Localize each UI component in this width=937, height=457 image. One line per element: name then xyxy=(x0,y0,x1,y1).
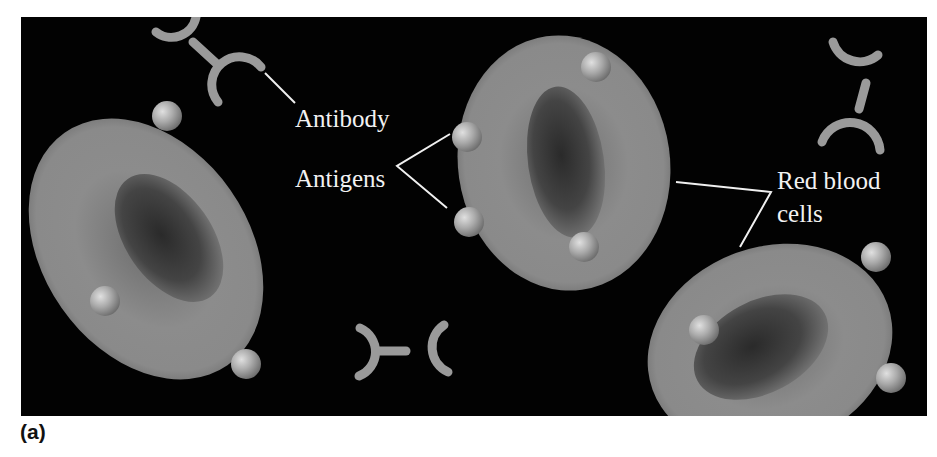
antigen-icon xyxy=(876,363,906,393)
antibody-icon xyxy=(156,17,261,102)
antigen-icon xyxy=(861,242,891,272)
antigen-icon xyxy=(689,315,719,345)
antigen-icon xyxy=(581,52,611,82)
antigen-icon xyxy=(90,286,120,316)
diagram-panel: Antibody Antigens Red blood cells xyxy=(21,17,927,416)
antigen-icon xyxy=(152,101,182,131)
antigen-icon xyxy=(452,122,482,152)
antigen-icon xyxy=(231,349,261,379)
label-antigens: Antigens xyxy=(295,165,385,192)
antibody-icon xyxy=(822,42,880,150)
antibody-icon xyxy=(359,325,448,376)
label-antibody: Antibody xyxy=(295,105,389,132)
antigen-icon xyxy=(569,232,599,262)
panel-label: (a) xyxy=(20,420,46,444)
red-blood-cell-bottom-right xyxy=(618,210,921,416)
red-blood-cell-center xyxy=(441,21,687,304)
red-blood-cell-left xyxy=(21,74,312,416)
label-red-blood-cells-line1: Red blood xyxy=(777,167,880,194)
label-red-blood-cells-line2: cells xyxy=(777,200,823,227)
antigen-icon xyxy=(454,207,484,237)
